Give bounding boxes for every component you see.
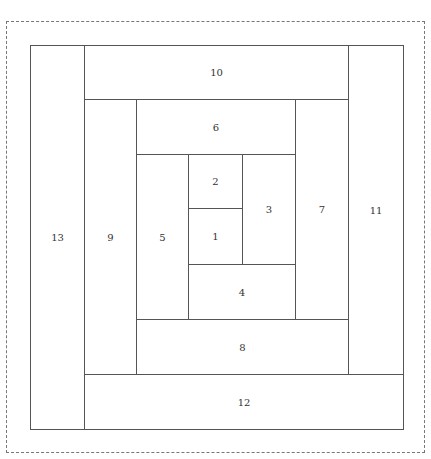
- panel-2: 2: [188, 154, 243, 209]
- panel-label-13: 13: [51, 232, 64, 243]
- panel-12: 12: [84, 374, 404, 430]
- panel-10: 10: [84, 45, 349, 100]
- panel-4: 4: [188, 264, 296, 320]
- panel-9: 9: [84, 99, 137, 375]
- panel-label-6: 6: [213, 122, 219, 133]
- panel-5: 5: [136, 154, 189, 320]
- panel-1: 1: [188, 208, 243, 265]
- panel-label-7: 7: [319, 204, 325, 215]
- panel-label-5: 5: [159, 232, 165, 243]
- panel-label-9: 9: [107, 232, 113, 243]
- panel-11: 11: [348, 45, 404, 375]
- panel-8: 8: [136, 319, 349, 375]
- panel-label-10: 10: [210, 67, 223, 78]
- panel-label-11: 11: [370, 205, 383, 216]
- panel-label-2: 2: [212, 176, 218, 187]
- panel-6: 6: [136, 99, 296, 155]
- panel-label-3: 3: [266, 204, 272, 215]
- panel-7: 7: [295, 99, 349, 320]
- panel-13: 13: [30, 45, 85, 430]
- panel-label-8: 8: [239, 342, 245, 353]
- panel-label-12: 12: [238, 397, 251, 408]
- panel-3: 3: [242, 154, 296, 265]
- panel-label-4: 4: [239, 287, 245, 298]
- panel-label-1: 1: [212, 231, 218, 242]
